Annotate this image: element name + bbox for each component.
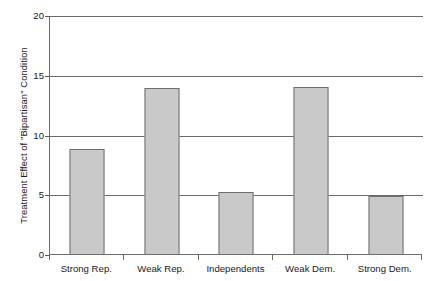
x-tick-mark-2 xyxy=(198,255,199,260)
x-tick-label-weak-rep: Weak Rep. xyxy=(124,261,199,277)
x-tick-mark-5 xyxy=(421,255,422,260)
x-tick-label-strong-dem: Strong Dem. xyxy=(347,261,422,277)
bar-slot-strong-rep xyxy=(50,16,125,255)
x-tick-label-weak-dem: Weak Dem. xyxy=(273,261,348,277)
x-tick-mark-1 xyxy=(123,255,124,260)
y-axis-tick-labels: 20 15 10 5 0 xyxy=(22,0,44,281)
bar-independents[interactable] xyxy=(219,192,254,255)
x-tick-label-strong-rep: Strong Rep. xyxy=(49,261,124,277)
bar-slot-weak-rep xyxy=(125,16,200,255)
y-tick-label-15: 15 xyxy=(24,71,44,81)
x-tick-mark-3 xyxy=(272,255,273,260)
x-axis-tick-labels: Strong Rep. Weak Rep. Independents Weak … xyxy=(49,261,422,277)
plot-area xyxy=(49,16,422,255)
x-tick-mark-4 xyxy=(347,255,348,260)
bar-strong-rep[interactable] xyxy=(70,149,105,255)
x-tick-mark-0 xyxy=(49,255,50,260)
y-tick-label-0: 0 xyxy=(24,250,44,260)
y-tick-label-10: 10 xyxy=(24,131,44,141)
y-tick-label-20: 20 xyxy=(24,11,44,21)
bar-weak-rep[interactable] xyxy=(144,88,179,255)
bar-slot-weak-dem xyxy=(274,16,349,255)
y-tick-label-5: 5 xyxy=(24,190,44,200)
bar-chart-figure: Treatment Effect of "Bipartisan" Conditi… xyxy=(0,0,436,281)
bar-group xyxy=(50,16,423,255)
bar-slot-independents xyxy=(199,16,274,255)
x-tick-label-independents: Independents xyxy=(198,261,273,277)
bar-weak-dem[interactable] xyxy=(294,87,329,255)
bar-strong-dem[interactable] xyxy=(368,196,403,255)
bar-slot-strong-dem xyxy=(348,16,423,255)
